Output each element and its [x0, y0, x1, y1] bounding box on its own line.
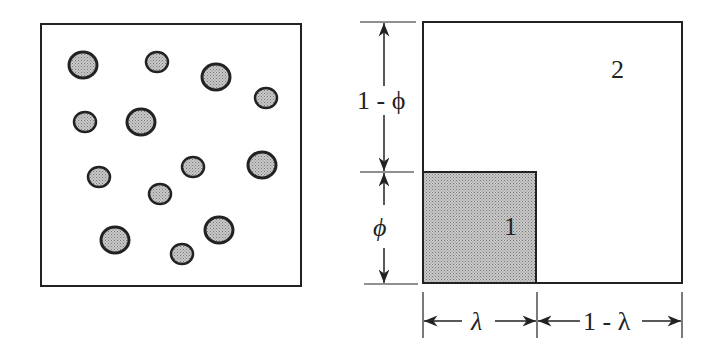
right-panel: 2 1 1 - ϕ ϕ λ 1 - λ: [357, 22, 682, 338]
particle: [248, 152, 276, 178]
left-panel: [41, 24, 301, 286]
particle: [74, 112, 96, 132]
region-2-label: 2: [611, 55, 624, 84]
particle: [205, 217, 233, 243]
particle: [69, 52, 97, 78]
dim-label-lambda: λ: [470, 307, 482, 336]
particle: [149, 184, 171, 204]
particle: [88, 167, 110, 187]
region-1-label: 1: [504, 212, 517, 241]
dim-label-phi: ϕ: [373, 213, 386, 242]
dim-label-one-minus-phi: 1 - ϕ: [357, 86, 405, 115]
particle: [146, 52, 168, 72]
dim-label-one-minus-lambda: 1 - λ: [583, 307, 631, 336]
particle: [127, 109, 155, 135]
particle: [171, 244, 193, 264]
particle: [202, 64, 230, 90]
region-1-square: [423, 172, 536, 283]
figure-canvas: 2 1 1 - ϕ ϕ λ 1 - λ: [0, 0, 720, 355]
particle: [101, 227, 129, 253]
particle: [255, 88, 277, 108]
particle: [182, 157, 204, 177]
